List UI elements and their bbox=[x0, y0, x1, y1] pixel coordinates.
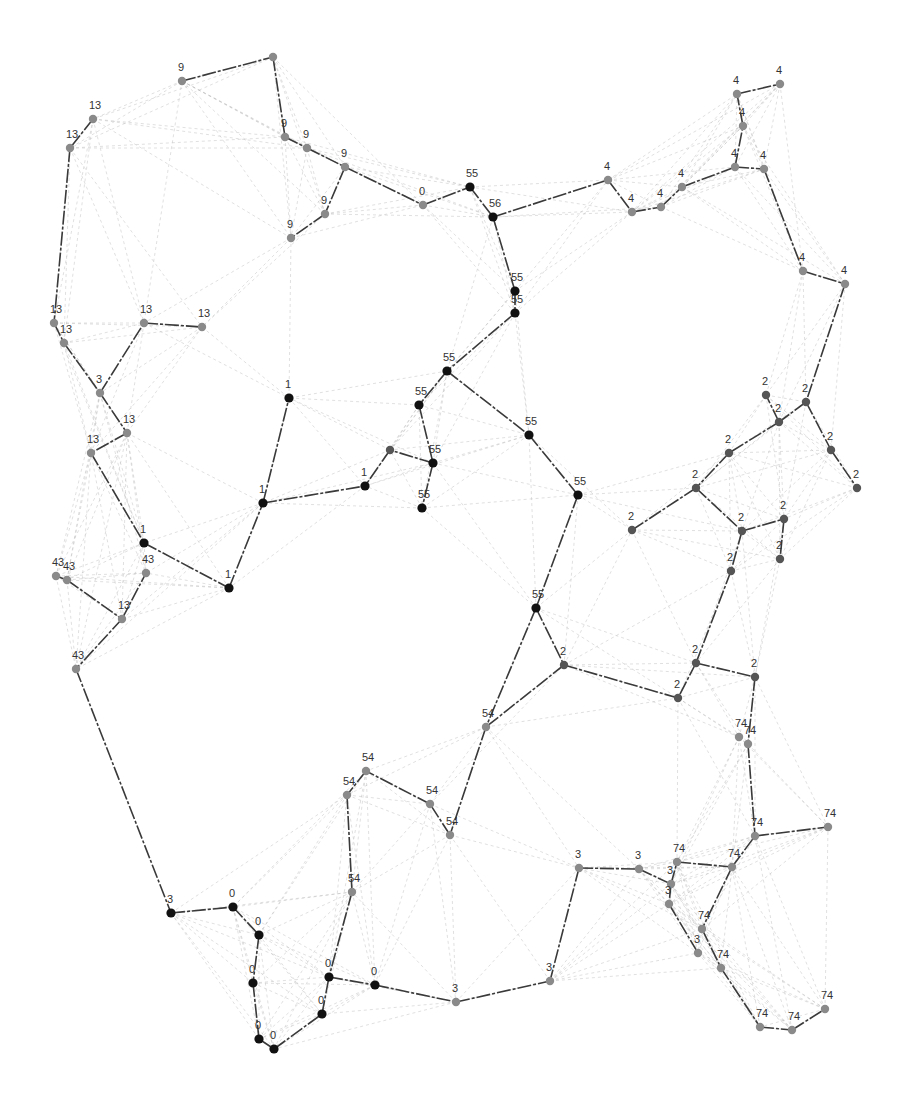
graph-node[interactable] bbox=[756, 1023, 764, 1031]
graph-node[interactable] bbox=[760, 165, 768, 173]
graph-node[interactable] bbox=[628, 526, 636, 534]
graph-node[interactable] bbox=[348, 888, 356, 896]
graph-node[interactable] bbox=[442, 366, 451, 375]
graph-node[interactable] bbox=[140, 319, 148, 327]
graph-node[interactable] bbox=[417, 503, 426, 512]
graph-node[interactable] bbox=[224, 583, 233, 592]
graph-node[interactable] bbox=[426, 800, 434, 808]
graph-node[interactable] bbox=[673, 858, 681, 866]
graph-node[interactable] bbox=[269, 1044, 278, 1053]
graph-node[interactable] bbox=[370, 980, 379, 989]
graph-node[interactable] bbox=[678, 183, 686, 191]
graph-node[interactable] bbox=[717, 964, 725, 972]
graph-node[interactable] bbox=[72, 665, 80, 673]
graph-node[interactable] bbox=[698, 925, 706, 933]
graph-node[interactable] bbox=[738, 527, 746, 535]
graph-node[interactable] bbox=[465, 182, 474, 191]
graph-node[interactable] bbox=[674, 694, 682, 702]
graph-node[interactable] bbox=[284, 393, 293, 402]
graph-node[interactable] bbox=[118, 615, 126, 623]
graph-node[interactable] bbox=[488, 212, 497, 221]
graph-node[interactable] bbox=[66, 144, 74, 152]
graph-node[interactable] bbox=[776, 80, 784, 88]
graph-node[interactable] bbox=[802, 398, 810, 406]
graph-node[interactable] bbox=[692, 484, 700, 492]
graph-node[interactable] bbox=[524, 430, 533, 439]
graph-node[interactable] bbox=[89, 115, 97, 123]
graph-node[interactable] bbox=[546, 977, 554, 985]
graph-node[interactable] bbox=[575, 864, 583, 872]
graph-node[interactable] bbox=[739, 122, 747, 130]
graph-node[interactable] bbox=[788, 1026, 796, 1034]
graph-node[interactable] bbox=[269, 53, 277, 61]
graph-node[interactable] bbox=[727, 567, 735, 575]
graph-node[interactable] bbox=[446, 831, 454, 839]
graph-node[interactable] bbox=[657, 203, 665, 211]
graph-node[interactable] bbox=[362, 767, 370, 775]
graph-node[interactable] bbox=[821, 1005, 829, 1013]
graph-node[interactable] bbox=[317, 1009, 326, 1018]
graph-node[interactable] bbox=[780, 515, 788, 523]
graph-node[interactable] bbox=[776, 555, 784, 563]
graph-node[interactable] bbox=[560, 661, 568, 669]
graph-node[interactable] bbox=[428, 458, 437, 467]
graph-node[interactable] bbox=[360, 481, 369, 490]
graph-node[interactable] bbox=[123, 429, 131, 437]
graph-node[interactable] bbox=[87, 449, 95, 457]
graph-node[interactable] bbox=[50, 319, 58, 327]
graph-node[interactable] bbox=[853, 484, 861, 492]
graph-node[interactable] bbox=[166, 908, 175, 917]
graph-node[interactable] bbox=[258, 498, 267, 507]
graph-node[interactable] bbox=[635, 865, 643, 873]
graph-node[interactable] bbox=[824, 823, 832, 831]
graph-node[interactable] bbox=[751, 832, 759, 840]
graph-node[interactable] bbox=[386, 446, 394, 454]
graph-node[interactable] bbox=[341, 163, 349, 171]
graph-node[interactable] bbox=[287, 234, 295, 242]
graph-node[interactable] bbox=[343, 791, 351, 799]
graph-node[interactable] bbox=[324, 972, 333, 981]
graph-node[interactable] bbox=[827, 446, 835, 454]
graph-node[interactable] bbox=[799, 267, 807, 275]
background-edge bbox=[678, 571, 731, 698]
graph-node[interactable] bbox=[452, 998, 460, 1006]
graph-node[interactable] bbox=[692, 659, 700, 667]
node-label: 55 bbox=[532, 588, 544, 600]
graph-node[interactable] bbox=[228, 902, 237, 911]
graph-node[interactable] bbox=[694, 949, 702, 957]
graph-node[interactable] bbox=[731, 163, 739, 171]
graph-node[interactable] bbox=[96, 389, 104, 397]
graph-node[interactable] bbox=[482, 723, 490, 731]
graph-node[interactable] bbox=[735, 733, 743, 741]
graph-node[interactable] bbox=[628, 208, 636, 216]
graph-node[interactable] bbox=[198, 323, 206, 331]
node-label: 13 bbox=[89, 99, 101, 111]
graph-node[interactable] bbox=[178, 77, 186, 85]
graph-node[interactable] bbox=[510, 308, 519, 317]
graph-node[interactable] bbox=[725, 449, 733, 457]
graph-node[interactable] bbox=[254, 1034, 263, 1043]
graph-node[interactable] bbox=[281, 133, 289, 141]
graph-node[interactable] bbox=[139, 538, 148, 547]
graph-node[interactable] bbox=[728, 863, 736, 871]
graph-node[interactable] bbox=[63, 576, 71, 584]
graph-node[interactable] bbox=[604, 176, 612, 184]
graph-node[interactable] bbox=[414, 400, 423, 409]
graph-node[interactable] bbox=[841, 280, 849, 288]
graph-node[interactable] bbox=[254, 930, 263, 939]
graph-node[interactable] bbox=[762, 391, 770, 399]
graph-node[interactable] bbox=[744, 740, 752, 748]
graph-node[interactable] bbox=[665, 900, 673, 908]
graph-node[interactable] bbox=[775, 418, 783, 426]
graph-node[interactable] bbox=[303, 144, 311, 152]
graph-node[interactable] bbox=[142, 569, 150, 577]
graph-node[interactable] bbox=[52, 572, 60, 580]
graph-node[interactable] bbox=[573, 490, 582, 499]
graph-node[interactable] bbox=[419, 201, 427, 209]
graph-node[interactable] bbox=[531, 603, 540, 612]
graph-node[interactable] bbox=[321, 210, 329, 218]
graph-node[interactable] bbox=[751, 673, 759, 681]
graph-node[interactable] bbox=[248, 978, 257, 987]
graph-node[interactable] bbox=[733, 90, 741, 98]
graph-node[interactable] bbox=[60, 339, 68, 347]
